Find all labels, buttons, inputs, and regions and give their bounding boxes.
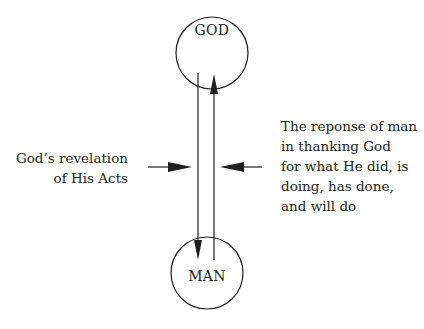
response-line-2: in thanking God [281,136,421,156]
man-node-label: MAN [167,268,247,284]
response-line-5: and will do [281,196,421,216]
revelation-line-1: God’s revelation [10,148,128,168]
god-node-label: GOD [172,22,252,38]
revelation-line-2: of His Acts [10,168,128,188]
response-arrow-up [210,74,218,260]
revelation-annotation: God’s revelation of His Acts [10,148,128,188]
response-line-4: doing, has done, [281,176,421,196]
response-line-3: for what He did, is [281,156,421,176]
left-pointer-arrow [148,162,192,172]
right-pointer-arrow [220,162,262,172]
revelation-arrow-down [194,73,202,260]
response-annotation: The reponse of man in thanking God for w… [281,116,421,216]
response-line-1: The reponse of man [281,116,421,136]
